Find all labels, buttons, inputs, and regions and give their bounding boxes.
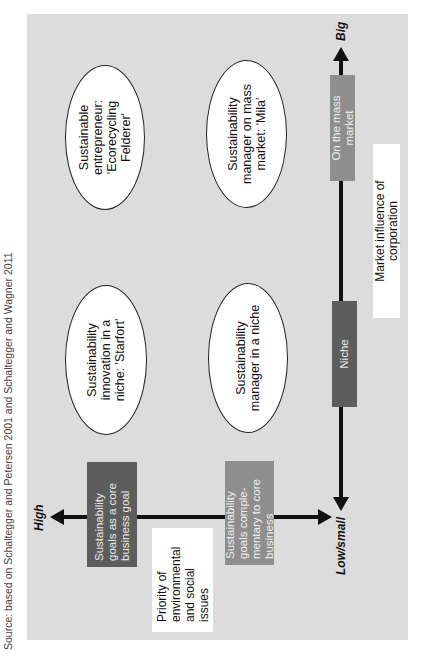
niche-label: Niche xyxy=(338,339,351,368)
arrow-up-icon xyxy=(50,509,64,525)
complementary-goal-label: Sustainability goals comple-mentary to c… xyxy=(224,467,276,559)
priority-axis-title: Priority of environmental and social iss… xyxy=(155,534,211,622)
ellipse-starfort-text: Sustainability innovation in a niche: 'S… xyxy=(85,302,127,418)
ellipse-ecorecycling-felderer: Sustainable entrepreneur: 'Ecorecycling … xyxy=(65,65,145,210)
diagram-stage: High Low/small Big Sustainability goals … xyxy=(0,0,422,661)
mass-market-label: On the mass market xyxy=(330,81,356,175)
market-low-label: Low/small xyxy=(334,517,348,575)
arrow-left-icon xyxy=(333,497,349,511)
ellipse-starfort: Sustainability innovation in a niche: 'S… xyxy=(65,285,147,435)
ellipse-niche-manager: Sustainability manager in a niche xyxy=(208,283,288,433)
core-goal-box: Sustainability goals as a core business … xyxy=(87,462,137,567)
market-axis-title: Market influence of corporation xyxy=(374,150,400,312)
ellipse-niche-manager-text: Sustainability manager in a niche xyxy=(234,300,262,416)
ellipse-ecorecycling-felderer-text: Sustainable entrepreneur: 'Ecorecycling … xyxy=(77,88,133,187)
complementary-goal-box: Sustainability goals comple-mentary to c… xyxy=(225,461,274,565)
market-big-label: Big xyxy=(334,22,348,41)
arrow-right-icon xyxy=(333,47,349,61)
ellipse-mila: Sustainability manager on mass market: '… xyxy=(206,60,287,208)
mass-market-box: On the mass market xyxy=(330,75,355,181)
priority-axis-title-box: Priority of environmental and social iss… xyxy=(152,528,213,632)
priority-high-label: High xyxy=(32,504,46,531)
arrow-down-icon xyxy=(318,509,332,525)
ellipse-mila-text: Sustainability manager on mass market: '… xyxy=(226,75,268,193)
core-goal-label: Sustainability goals as a core business … xyxy=(93,468,132,561)
market-axis-title-box: Market influence of corporation xyxy=(373,144,400,318)
niche-box: Niche xyxy=(332,301,357,407)
